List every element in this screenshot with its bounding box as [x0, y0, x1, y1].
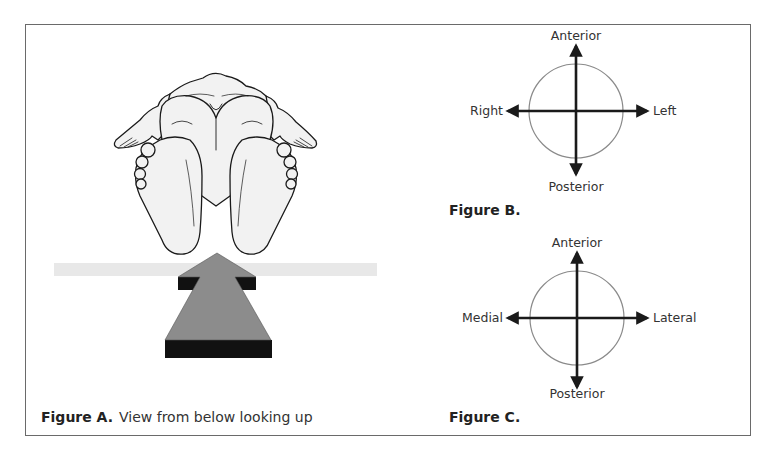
compass-figure-c — [508, 253, 647, 387]
figure-c-label-anterior: Anterior — [552, 237, 602, 250]
figure-b-label-left: Left — [653, 105, 677, 118]
figure-b-title: Figure B. — [449, 202, 521, 218]
figure-c-label-lateral: Lateral — [653, 312, 697, 325]
figure-b-label-anterior: Anterior — [551, 30, 601, 43]
figure-b-label-posterior: Posterior — [548, 181, 603, 194]
figure-b-label-right: Right — [470, 105, 503, 118]
figure-b-caption: Figure B. — [449, 203, 521, 217]
feet-illustration — [114, 73, 316, 254]
compass-figure-b — [508, 46, 647, 174]
figure-c-caption: Figure C. — [449, 410, 520, 424]
figure-a-description: View from below looking up — [119, 409, 313, 425]
figure-c-label-posterior: Posterior — [549, 388, 604, 401]
figure-c-title: Figure C. — [449, 409, 520, 425]
figure-c-label-medial: Medial — [462, 312, 503, 325]
figure-a-title: Figure A. — [41, 409, 113, 425]
diagram-artwork — [0, 0, 778, 459]
figure-a-caption: Figure A.View from below looking up — [41, 410, 313, 424]
